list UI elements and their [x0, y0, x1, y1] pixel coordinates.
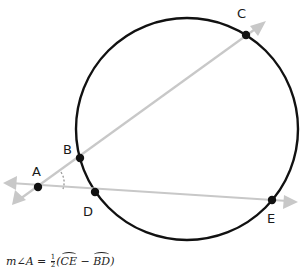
secant-secant-diagram: A B C D E — [0, 0, 300, 279]
minus-sign: − — [77, 255, 93, 268]
point-E — [268, 196, 276, 204]
label-E: E — [267, 211, 275, 226]
point-B — [76, 154, 84, 162]
label-C: C — [237, 6, 246, 21]
arrowhead-left-icon — [3, 176, 17, 190]
label-A: A — [32, 164, 41, 179]
point-C — [242, 31, 250, 39]
point-D — [91, 188, 99, 196]
point-A — [34, 183, 42, 191]
label-D: D — [83, 204, 93, 219]
fraction-one-half: 12 — [51, 254, 55, 269]
formula-lhs: m∠A = — [6, 255, 50, 268]
arrowhead-E-icon — [283, 195, 298, 209]
arrowhead-C-icon — [250, 21, 266, 36]
arc-CE: CE — [61, 255, 77, 268]
circle — [76, 18, 298, 240]
secant-ray-ADE — [10, 183, 288, 201]
fraction-denominator: 2 — [51, 262, 55, 269]
arc-BD: BD — [93, 255, 110, 268]
angle-formula: m∠A = 12(CE − BD) — [6, 254, 114, 269]
label-B: B — [63, 142, 72, 157]
close-paren: ) — [110, 255, 114, 268]
secant-ray-ABC — [20, 27, 258, 199]
